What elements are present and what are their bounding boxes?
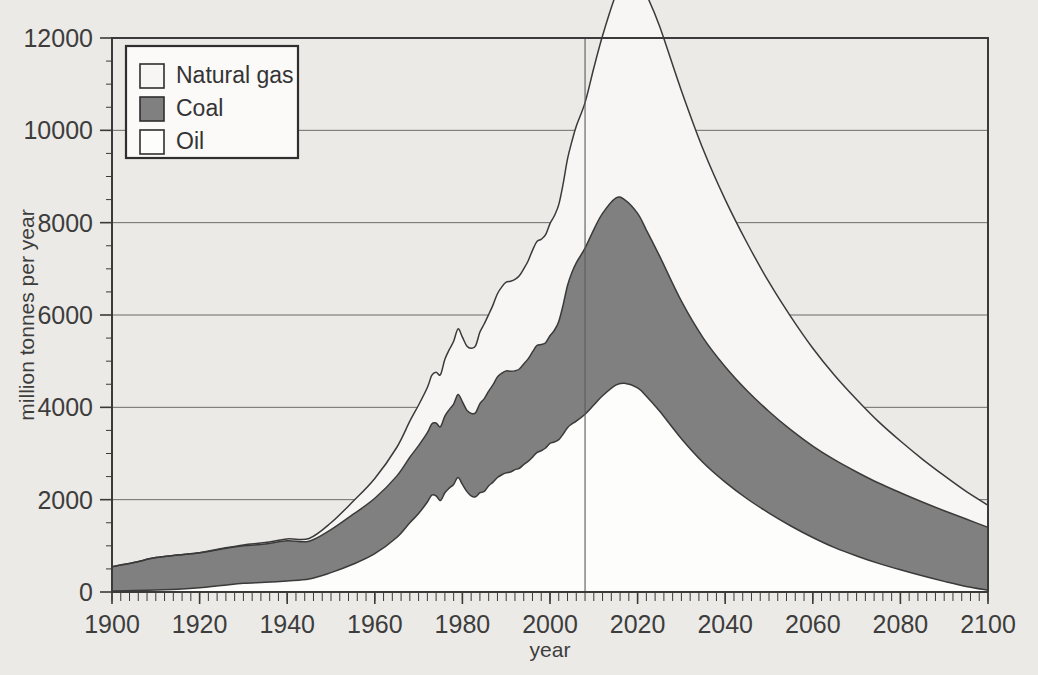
y-tick-label: 0 [79, 578, 93, 606]
chart-legend: Natural gasCoalOil [126, 46, 298, 158]
legend-label-natural-gas: Natural gas [176, 62, 294, 88]
y-tick-label: 8000 [37, 209, 93, 237]
x-tick-label: 1920 [172, 610, 228, 638]
x-tick-label: 1940 [259, 610, 315, 638]
y-tick-label: 12000 [23, 24, 93, 52]
legend-label-oil: Oil [176, 128, 204, 154]
x-tick-label: 2080 [873, 610, 929, 638]
stacked-area-chart: 1900192019401960198020002020204020602080… [0, 0, 1038, 675]
legend-swatch-natural-gas [140, 64, 164, 88]
x-axis-title: year [530, 638, 571, 661]
x-tick-label: 2060 [785, 610, 841, 638]
legend-swatch-coal [140, 97, 164, 121]
x-tick-label: 2040 [697, 610, 753, 638]
x-tick-label: 2000 [522, 610, 578, 638]
legend-swatch-oil [140, 130, 164, 154]
y-tick-label: 4000 [37, 393, 93, 421]
y-tick-label: 6000 [37, 301, 93, 329]
x-tick-label: 1960 [347, 610, 403, 638]
legend-label-coal: Coal [176, 95, 223, 121]
x-tick-label: 1980 [435, 610, 491, 638]
x-tick-label: 2020 [610, 610, 666, 638]
y-tick-label: 10000 [23, 116, 93, 144]
y-tick-label: 2000 [37, 486, 93, 514]
x-tick-label: 2100 [960, 610, 1016, 638]
x-tick-label: 1900 [84, 610, 140, 638]
chart-figure: 1900192019401960198020002020204020602080… [0, 0, 1038, 675]
y-axis-title: million tonnes per year [15, 209, 38, 420]
